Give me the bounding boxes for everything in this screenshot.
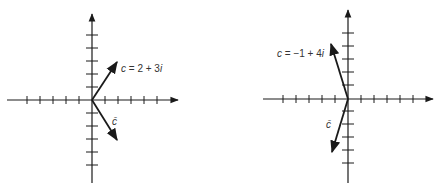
vector-c-label: c = 2 + 3i bbox=[121, 63, 163, 74]
complex-plane-figure: c = 2 + 3i c̄ bbox=[0, 0, 443, 194]
vector-conjugate-arrow bbox=[332, 99, 348, 152]
conjugate-label: c̄ bbox=[112, 116, 118, 127]
complex-plane-right: c = −1 + 4i c̄ bbox=[263, 10, 433, 183]
vector-c-arrow bbox=[92, 62, 117, 100]
vector-c-label: c = −1 + 4i bbox=[277, 48, 325, 59]
conjugate-label: c̄ bbox=[326, 119, 332, 130]
complex-plane-left: c = 2 + 3i c̄ bbox=[7, 14, 178, 183]
